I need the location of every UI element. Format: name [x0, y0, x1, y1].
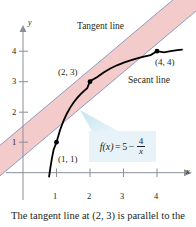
secant-line-label: Secant line	[128, 76, 170, 86]
data-point-1-1	[54, 140, 59, 145]
y-tick-label-3: 3	[12, 77, 16, 86]
x-axis-label: x	[186, 168, 190, 176]
data-point-2-3	[88, 79, 93, 84]
figure-caption: The tangent line at (2, 3) is parallel t…	[0, 204, 196, 227]
formula-minus: −	[129, 142, 135, 152]
formula-equals: =	[115, 142, 121, 152]
point-2-3-label: (2, 3)	[58, 68, 78, 77]
y-tick-label-1: 1	[12, 138, 16, 147]
function-formula-box: f(x) = 5 − 4 x	[89, 131, 156, 162]
point-4-4-label: (4, 4)	[155, 58, 175, 67]
y-axis-label: y	[28, 19, 32, 27]
formula-lhs: f(x)	[100, 142, 114, 152]
x-tick-label-4: 4	[154, 192, 158, 201]
formula-numerator: 4	[137, 137, 146, 146]
point-1-1-label: (1, 1)	[58, 155, 78, 164]
formula-denominator: x	[137, 147, 145, 156]
data-point-4-4	[155, 49, 160, 54]
x-tick-label-2: 2	[87, 192, 91, 201]
formula-pointer	[80, 110, 118, 131]
y-tick-label-4: 4	[12, 47, 16, 56]
formula-fraction: 4 x	[137, 137, 146, 157]
y-axis-arrow	[20, 25, 27, 32]
x-tick-label-3: 3	[120, 192, 124, 201]
x-tick-label-1: 1	[53, 192, 57, 201]
function-formula: f(x) = 5 − 4 x	[100, 137, 146, 157]
tangent-line-label: Tangent line	[77, 22, 124, 32]
y-tick-label-2: 2	[12, 108, 16, 117]
formula-constant: 5	[122, 142, 127, 152]
